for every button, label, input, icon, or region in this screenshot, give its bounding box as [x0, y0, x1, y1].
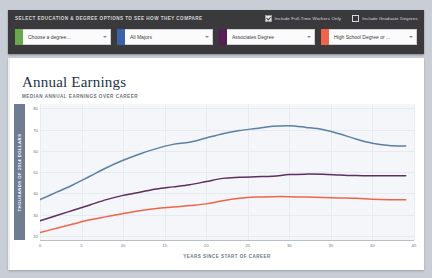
chevron-down-icon — [307, 36, 311, 38]
page-subtitle: MEDIAN ANNUAL EARNINGS OVER CAREER — [22, 94, 138, 99]
associates-select-value: Associates Degree — [232, 34, 305, 40]
degree-select[interactable]: Choose a degree... — [15, 29, 111, 45]
highschool-select[interactable]: High School Degree or ... — [321, 29, 417, 45]
highschool-select-field[interactable]: High School Degree or ... — [329, 29, 417, 45]
x-axis-label: YEARS SINCE START OF CAREER — [40, 254, 414, 259]
y-tick-label: 80 — [33, 106, 38, 111]
checkbox-group: Include Full-Time Workers Only Include G… — [265, 15, 418, 22]
series-line — [40, 197, 406, 233]
color-swatch-purple — [219, 29, 227, 45]
y-axis-label: THOUSANDS OF 2014 DOLLARS — [14, 104, 25, 240]
color-swatch-blue — [117, 29, 125, 45]
degree-select-field[interactable]: Choose a degree... — [23, 29, 111, 45]
line-chart — [40, 104, 414, 240]
chevron-down-icon — [205, 36, 209, 38]
x-tick-label: 15 — [162, 243, 167, 248]
control-bar-title: SELECT EDUCATION & DEGREE OPTIONS TO SEE… — [15, 16, 203, 21]
color-swatch-green — [15, 29, 23, 45]
associates-select[interactable]: Associates Degree — [219, 29, 315, 45]
series-line — [40, 126, 406, 200]
y-tick-label: 50 — [33, 170, 38, 175]
chevron-down-icon — [103, 36, 107, 38]
y-tick-label: 40 — [33, 191, 38, 196]
major-select[interactable]: All Majors — [117, 29, 213, 45]
checkbox-icon — [352, 15, 359, 22]
x-tick-label: 30 — [287, 243, 292, 248]
x-tick-label: 0 — [39, 243, 41, 248]
plot-area — [40, 104, 414, 240]
app-root: SELECT EDUCATION & DEGREE OPTIONS TO SEE… — [0, 0, 432, 278]
checkbox-label: Include Full-Time Workers Only — [275, 16, 342, 21]
checkbox-graduate-degrees[interactable]: Include Graduate Degrees — [352, 15, 418, 22]
x-axis-ticks: 051015202530354045 — [40, 243, 414, 251]
x-tick-label: 35 — [328, 243, 333, 248]
highschool-select-value: High School Degree or ... — [334, 34, 407, 40]
x-axis-line — [40, 240, 414, 241]
y-axis-ticks: 20304050607080 — [26, 104, 39, 240]
x-tick-label: 25 — [245, 243, 250, 248]
associates-select-field[interactable]: Associates Degree — [227, 29, 315, 45]
x-tick-label: 45 — [412, 243, 417, 248]
x-tick-label: 20 — [204, 243, 209, 248]
y-tick-label: 30 — [33, 212, 38, 217]
y-tick-label: 70 — [33, 127, 38, 132]
x-tick-label: 5 — [80, 243, 82, 248]
y-tick-label: 20 — [33, 233, 38, 238]
major-select-value: All Majors — [130, 34, 203, 40]
x-tick-label: 40 — [370, 243, 375, 248]
chart-card: Annual Earnings MEDIAN ANNUAL EARNINGS O… — [8, 58, 424, 270]
checkbox-label: Include Graduate Degrees — [362, 16, 418, 21]
selector-row: Choose a degree... All Majors Associates… — [15, 29, 417, 45]
checkbox-icon — [265, 15, 272, 22]
control-bar: SELECT EDUCATION & DEGREE OPTIONS TO SEE… — [8, 10, 424, 54]
color-swatch-orange — [321, 29, 329, 45]
degree-select-value: Choose a degree... — [28, 34, 101, 40]
plot-wrapper: THOUSANDS OF 2014 DOLLARS 20304050607080… — [8, 104, 424, 270]
checkbox-full-time-workers[interactable]: Include Full-Time Workers Only — [265, 15, 342, 22]
x-tick-label: 10 — [121, 243, 126, 248]
gridline-vertical — [414, 104, 415, 240]
y-tick-label: 60 — [33, 148, 38, 153]
page-title: Annual Earnings — [22, 74, 126, 91]
major-select-field[interactable]: All Majors — [125, 29, 213, 45]
chevron-down-icon — [409, 36, 413, 38]
